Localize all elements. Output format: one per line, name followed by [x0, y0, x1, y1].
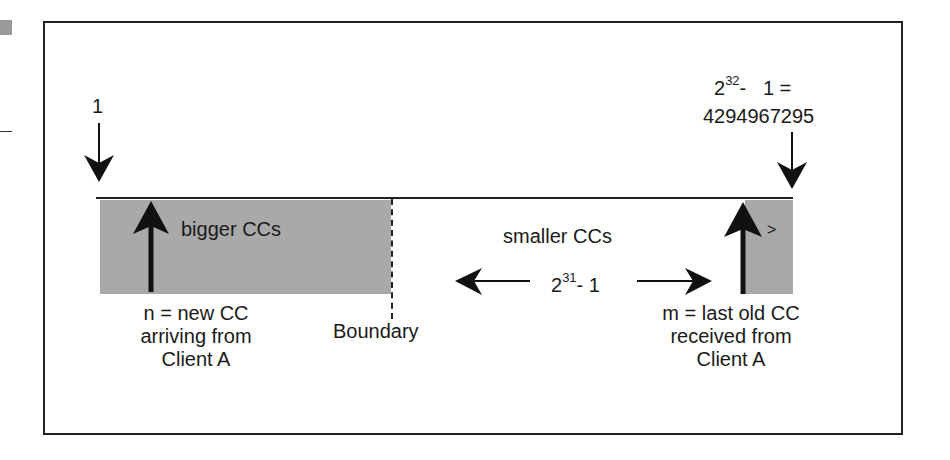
bigger-ccs-label: bigger CCs — [181, 218, 281, 241]
n-description-line-3: Client A — [118, 348, 274, 371]
end-value-number: 4294967295 — [703, 105, 814, 128]
smaller-ccs-label: smaller CCs — [503, 225, 612, 248]
end-formula-base: 2 — [714, 77, 725, 99]
end-formula-exponent: 32 — [725, 73, 739, 88]
m-description-line-3: Client A — [641, 348, 821, 371]
span-formula: 231- 1 — [551, 268, 600, 297]
m-description-line-2: received from — [641, 325, 821, 348]
right-arrow-icon — [637, 268, 712, 295]
n-description-line-2: arriving from — [118, 325, 274, 348]
greater-than-label: > — [767, 218, 776, 241]
n-description: n = new CC arriving from Client A — [118, 302, 274, 371]
m-description-line-1: m = last old CC — [641, 302, 821, 325]
left-arrow-icon — [455, 268, 530, 295]
span-formula-exponent: 31 — [562, 270, 576, 285]
m-description: m = last old CC received from Client A — [641, 302, 821, 371]
arrows-layer — [0, 0, 950, 460]
start-down-arrow-icon — [84, 123, 114, 182]
end-formula-rest: - 1 = — [740, 77, 792, 99]
span-formula-rest: - 1 — [577, 274, 600, 296]
span-formula-base: 2 — [551, 274, 562, 296]
start-value-label: 1 — [92, 95, 103, 118]
n-description-line-1: n = new CC — [118, 302, 274, 325]
boundary-label: Boundary — [333, 320, 419, 343]
end-value-formula: 232- 1 = — [714, 71, 791, 100]
end-down-arrow-icon — [777, 132, 807, 189]
m-up-arrow-icon — [724, 202, 762, 294]
